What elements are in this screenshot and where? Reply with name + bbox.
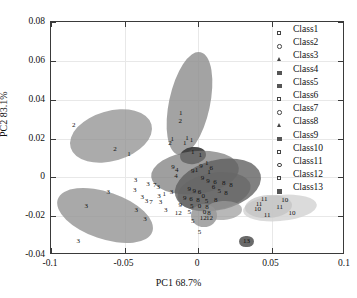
data-point-label: 2: [72, 121, 76, 128]
data-point-label: 8: [214, 197, 218, 204]
legend-label: Class1: [293, 24, 318, 34]
data-point-label: 3: [170, 188, 174, 195]
y-tick-mark-right: [338, 216, 343, 217]
circle-open-icon: [276, 42, 285, 51]
data-point-label: 8: [224, 190, 228, 197]
x-tick-mark: [272, 248, 273, 253]
triangle-open-icon: [276, 55, 285, 64]
y-tick-label: 0.06: [0, 55, 45, 65]
x-tick-mark: [125, 248, 126, 253]
x-tick-label: 0.1: [338, 258, 350, 268]
data-point-label: 12: [175, 210, 182, 217]
marker-glyph: [277, 71, 282, 76]
data-point-label: 1: [127, 151, 131, 158]
data-point-label: 2: [179, 118, 183, 125]
legend-label: Class10: [293, 143, 323, 153]
legend-label: Class6: [293, 90, 318, 100]
data-point-label: 1: [198, 152, 202, 159]
data-point-label: 9: [171, 164, 175, 171]
confidence-ellipse-class2: [63, 100, 157, 171]
x-tick-label: -0.05: [114, 258, 134, 268]
legend-label: Class4: [293, 64, 318, 74]
x-tick-mark-top: [198, 22, 199, 27]
marker-glyph: [277, 31, 281, 35]
y-tick-label: -0.04: [0, 249, 45, 259]
legend-label: Class3: [293, 50, 318, 60]
data-point-label: 11: [264, 212, 271, 219]
data-point-label: 5: [218, 187, 222, 194]
data-point-label: 9: [179, 201, 183, 208]
y-tick-mark: [51, 100, 56, 101]
marker-glyph: [277, 189, 282, 194]
data-point-label: 10: [289, 210, 296, 217]
triangle-open-icon: [276, 121, 285, 130]
data-point-label: 9: [206, 178, 210, 185]
y-tick-mark: [51, 139, 56, 140]
legend-label: Class13: [293, 182, 323, 192]
marker-glyph: [277, 137, 282, 142]
pca-scatter-plot: 2213373333337333333131211211119164949116…: [0, 0, 357, 298]
dot-filled-icon: [276, 82, 285, 91]
marker-glyph: [277, 176, 281, 180]
data-point-label: 3: [76, 238, 80, 245]
y-axis-title: PC2 83.1%: [0, 91, 9, 137]
marker-glyph: [277, 123, 281, 127]
data-point-label: 1: [162, 191, 166, 198]
x-tick-mark-top: [272, 22, 273, 27]
legend-label: Class12: [293, 169, 323, 179]
data-point-label: 7: [149, 199, 153, 206]
marker-glyph: [277, 84, 282, 89]
data-point-label: 9: [183, 194, 187, 201]
circle-open-icon: [276, 108, 285, 117]
x-tick-label: 0: [195, 258, 200, 268]
data-point-label: 3: [157, 184, 161, 191]
data-point-label: 3: [164, 206, 168, 213]
square-open-icon: [276, 95, 285, 104]
data-point-label: 5: [191, 218, 195, 225]
x-tick-mark-top: [125, 22, 126, 27]
data-point-label: 2: [113, 146, 117, 153]
data-point-label: 3: [134, 176, 138, 183]
dot-filled-icon: [276, 187, 285, 196]
data-point-label: 9: [201, 174, 205, 181]
y-tick-mark: [51, 177, 56, 178]
x-tick-label: 0.05: [262, 258, 279, 268]
legend-label: Class9: [293, 130, 318, 140]
marker-glyph: [277, 97, 281, 101]
data-point-label: 13: [243, 238, 250, 245]
data-point-label: 3: [146, 181, 150, 188]
data-point-label: 3: [85, 203, 89, 210]
marker-glyph: [277, 57, 281, 61]
data-point-label: 6: [212, 184, 216, 191]
circle-open-icon: [276, 161, 285, 170]
legend-label: Class7: [293, 103, 318, 113]
dot-filled-icon: [276, 135, 285, 144]
legend-label: Class8: [293, 116, 318, 126]
legend: Class1Class2Class3Class4Class5Class6Clas…: [276, 25, 342, 196]
legend-item-class13[interactable]: Class13: [276, 183, 342, 196]
data-point-label: 12: [206, 215, 213, 222]
x-axis-title: PC1 68.7%: [0, 277, 357, 288]
marker-glyph: [277, 44, 282, 49]
data-point-label: 3: [135, 207, 139, 214]
data-point-label: 1: [205, 159, 209, 166]
data-point-label: 4: [174, 172, 178, 179]
data-point-label: 3: [133, 186, 137, 193]
data-point-label: 11: [276, 204, 283, 211]
y-tick-mark: [51, 61, 56, 62]
data-point-label: 9: [199, 163, 203, 170]
data-point-label: 3: [143, 216, 147, 223]
legend-label: Class2: [293, 37, 318, 47]
data-point-label: 8: [229, 182, 233, 189]
square-open-icon: [276, 148, 285, 157]
data-point-label: 3: [145, 197, 149, 204]
data-point-label: 1: [190, 137, 194, 144]
data-point-label: 8: [222, 180, 226, 187]
data-point-label: 1: [191, 148, 195, 155]
x-tick-label: -0.1: [42, 258, 57, 268]
data-point-label: 3: [107, 188, 111, 195]
y-tick-mark: [51, 22, 56, 23]
data-point-label: 0: [198, 203, 202, 210]
x-tick-mark: [51, 248, 52, 253]
legend-label: Class11: [293, 156, 323, 166]
